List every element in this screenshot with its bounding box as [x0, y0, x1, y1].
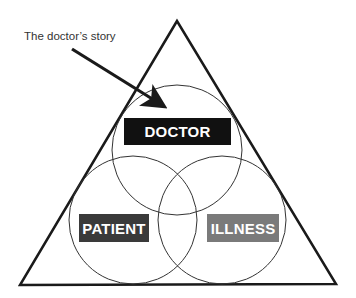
illness-label-text: ILLNESS — [211, 220, 276, 237]
patient-label: PATIENT — [79, 214, 149, 242]
doctor-label-text: DOCTOR — [145, 123, 211, 140]
doctor-circle — [112, 85, 242, 215]
illness-label: ILLNESS — [207, 214, 279, 242]
outer-triangle — [20, 21, 336, 285]
arrow-icon — [72, 49, 162, 105]
diagram-canvas — [0, 0, 356, 298]
doctors-story-annotation: The doctor’s story — [24, 30, 116, 42]
patient-label-text: PATIENT — [82, 220, 145, 237]
doctor-label: DOCTOR — [124, 118, 231, 145]
